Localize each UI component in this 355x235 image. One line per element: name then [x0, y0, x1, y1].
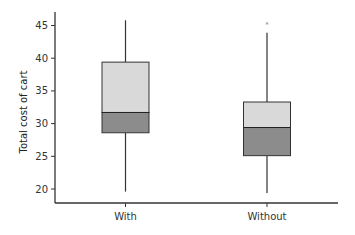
y-tick-label: 25 [35, 151, 48, 162]
box-plot: 202530354045WithWithout * Total cost of … [0, 0, 355, 235]
y-tick-label: 45 [35, 20, 48, 31]
box-without: * [244, 21, 291, 193]
box-with [102, 20, 149, 191]
upper-box [244, 102, 291, 128]
x-tick-label: With [114, 211, 137, 222]
y-axis-title: Total cost of cart [18, 70, 29, 154]
lower-box [102, 112, 149, 132]
x-tick-label: Without [247, 211, 286, 222]
lower-box [244, 128, 291, 156]
outlier-marker: * [265, 21, 269, 29]
y-tick-label: 30 [35, 118, 48, 129]
y-tick-label: 35 [35, 85, 48, 96]
boxes: * [102, 20, 291, 193]
upper-box [102, 62, 149, 112]
axes: 202530354045WithWithout [35, 12, 338, 222]
y-tick-label: 40 [35, 53, 48, 64]
y-tick-label: 20 [35, 184, 48, 195]
